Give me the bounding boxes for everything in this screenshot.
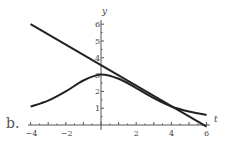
chart: −4−2246 123456 t y	[0, 0, 229, 147]
x-axis-label: t	[214, 114, 218, 124]
svg-text:2: 2	[95, 87, 100, 96]
svg-text:4: 4	[169, 129, 174, 138]
y-axis-label: y	[101, 6, 108, 16]
svg-text:1: 1	[95, 104, 100, 113]
svg-text:−2: −2	[61, 129, 73, 138]
curve-series	[31, 75, 207, 115]
svg-text:5: 5	[95, 37, 100, 46]
svg-text:6: 6	[204, 129, 209, 138]
svg-text:6: 6	[95, 20, 100, 29]
panel-label: b.	[6, 115, 19, 131]
svg-text:2: 2	[134, 129, 139, 138]
tangent-line-series	[31, 24, 207, 126]
svg-text:−4: −4	[26, 129, 38, 138]
